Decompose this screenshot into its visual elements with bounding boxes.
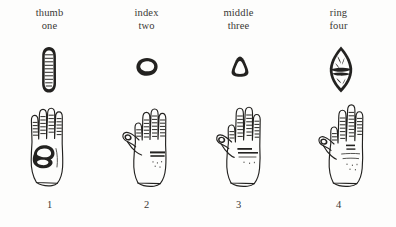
- specimen-column: index two: [97, 0, 196, 227]
- column-caption: middle three: [189, 6, 288, 33]
- specimen-figure: [289, 44, 388, 96]
- number-word-label: two: [97, 19, 196, 32]
- specimen-column: ring four: [289, 0, 388, 227]
- specimen-figure: [0, 44, 99, 96]
- hand-figure: [0, 104, 99, 188]
- illustration-plate: thumb one: [0, 0, 396, 227]
- column-caption: ring four: [289, 6, 388, 33]
- palm-with-folded-thumb-hand-icon: [20, 104, 76, 188]
- palm-with-raised-fingers-hand-icon: [312, 104, 372, 188]
- figure-numeral: 4: [289, 199, 388, 210]
- column-caption: thumb one: [0, 6, 99, 33]
- palm-with-extended-thumb-hand-icon: [117, 104, 177, 188]
- hand-figure: [189, 104, 288, 188]
- rounded-triangle-print-icon: [226, 54, 254, 86]
- figure-numeral: 3: [189, 199, 288, 210]
- finger-label: index: [97, 6, 196, 19]
- specimen-figure: [189, 44, 288, 96]
- specimen-column: thumb one: [0, 0, 99, 227]
- hand-figure: [289, 104, 388, 188]
- elongated-ridged-oval-print-icon: [34, 44, 64, 96]
- palm-with-spread-fingers-hand-icon: [210, 104, 270, 188]
- figure-numeral: 1: [0, 199, 99, 210]
- number-word-label: four: [289, 19, 388, 32]
- column-caption: index two: [97, 6, 196, 33]
- number-word-label: one: [0, 19, 99, 32]
- finger-label: ring: [289, 6, 388, 19]
- finger-label: middle: [189, 6, 288, 19]
- small-horizontal-oval-print-icon: [132, 54, 162, 86]
- pointed-lens-banded-print-icon: [324, 44, 358, 96]
- finger-label: thumb: [0, 6, 99, 19]
- number-word-label: three: [189, 19, 288, 32]
- hand-figure: [97, 104, 196, 188]
- specimen-column: middle three: [189, 0, 288, 227]
- figure-numeral: 2: [97, 199, 196, 210]
- specimen-figure: [97, 44, 196, 96]
